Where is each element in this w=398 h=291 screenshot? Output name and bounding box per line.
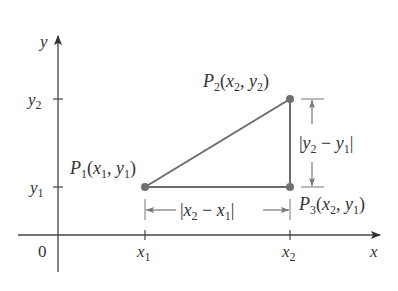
distance-diagram: y x 0 y2 y1 x1 x2 P1(x1, y1) P2(x2, y2) …	[0, 0, 398, 291]
point-p3	[286, 183, 294, 191]
x-axis-label: x	[369, 242, 378, 261]
hypotenuse-p1-p2	[145, 99, 290, 187]
origin-label: 0	[38, 242, 47, 261]
p2-label: P2(x2, y2)	[202, 71, 269, 94]
point-p2	[286, 95, 294, 103]
point-p1	[141, 183, 149, 191]
p3-label: P3(x2, y1)	[298, 194, 365, 217]
x2-tick-label: x2	[281, 242, 296, 264]
x1-tick-label: x1	[136, 242, 151, 264]
v-dim-label: |y2 − y1|	[299, 133, 353, 156]
p1-label: P1(x1, y1)	[69, 158, 136, 181]
h-dim-label: |x2 − x1|	[180, 200, 234, 223]
y1-tick-label: y1	[28, 178, 44, 200]
y2-tick-label: y2	[26, 90, 42, 112]
y-axis-label: y	[38, 32, 48, 51]
